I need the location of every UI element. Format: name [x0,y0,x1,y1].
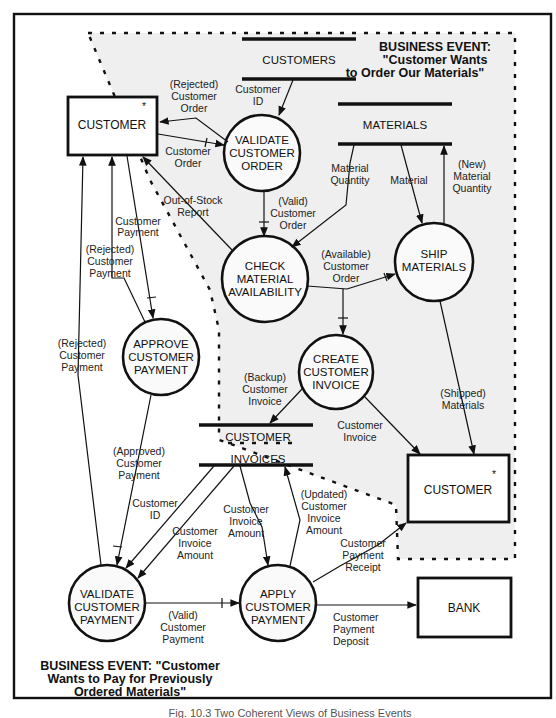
svg-text:CUSTOMER: CUSTOMER [225,431,291,443]
external-entity-customer-top[interactable]: CUSTOMER * [68,97,157,155]
svg-text:CUSTOMER: CUSTOMER [128,351,194,363]
svg-text:*: * [142,100,146,112]
process-check-material-availability[interactable]: CHECK MATERIAL AVAILABILITY [222,236,308,322]
svg-text:Customer: Customer [242,383,288,395]
svg-text:(Approved): (Approved) [113,445,165,457]
svg-text:(Valid): (Valid) [168,609,198,621]
svg-text:ID: ID [253,95,264,107]
svg-text:Customer: Customer [223,503,269,515]
svg-text:Payment: Payment [162,633,204,645]
flow-label-material: Material [390,174,427,186]
svg-text:(Shipped): (Shipped) [440,387,486,399]
svg-text:Payment: Payment [333,623,375,635]
svg-text:Wants to Pay for Previously: Wants to Pay for Previously [48,672,213,686]
svg-text:(Available): (Available) [321,248,370,260]
svg-text:Amount: Amount [228,527,264,539]
svg-text:(Backup): (Backup) [244,371,286,383]
svg-text:Customer: Customer [172,525,218,537]
svg-text:BUSINESS EVENT:: BUSINESS EVENT: [379,40,491,54]
svg-text:CUSTOMER: CUSTOMER [74,601,140,613]
svg-text:MATERIAL: MATERIAL [237,273,294,285]
svg-text:CHECK: CHECK [245,260,286,272]
svg-text:INVOICE: INVOICE [312,379,360,391]
process-apply-customer-payment[interactable]: APPLY CUSTOMER PAYMENT [240,565,316,641]
svg-text:AVAILABILITY: AVAILABILITY [228,286,302,298]
svg-text:Material: Material [453,170,490,182]
svg-text:CUSTOMER: CUSTOMER [245,601,311,613]
svg-text:Ordered Materials": Ordered Materials" [74,685,186,699]
process-validate-customer-order[interactable]: VALIDATE CUSTOMER ORDER [224,115,300,191]
svg-text:Customer: Customer [132,497,178,509]
svg-text:PAYMENT: PAYMENT [80,614,134,626]
process-validate-customer-payment[interactable]: VALIDATE CUSTOMER PAYMENT [69,565,145,641]
svg-text:PAYMENT: PAYMENT [134,364,188,376]
svg-text:Out-of-Stock: Out-of-Stock [164,194,224,206]
svg-text:*: * [492,468,496,480]
svg-text:(Updated): (Updated) [301,488,348,500]
svg-text:Quantity: Quantity [452,182,492,194]
svg-text:Invoice: Invoice [307,512,340,524]
svg-text:CUSTOMER: CUSTOMER [78,118,147,132]
svg-text:Payment: Payment [61,361,103,373]
svg-text:(Rejected): (Rejected) [170,78,218,90]
svg-text:CUSTOMER: CUSTOMER [229,147,295,159]
flow-label-shipped-materials: (Shipped) Materials [440,387,486,411]
svg-text:Customer: Customer [165,145,211,157]
svg-text:Quantity: Quantity [330,174,370,186]
data-flow-diagram: BUSINESS EVENT: "Customer Wants to Order… [0,0,556,718]
svg-text:INVOICES: INVOICES [231,453,286,465]
svg-text:Customer: Customer [323,260,369,272]
svg-text:VALIDATE: VALIDATE [235,134,289,146]
svg-text:Payment: Payment [118,469,160,481]
flow-label-material-quantity: Material Quantity [330,162,370,186]
svg-text:to Order Our Materials": to Order Our Materials" [346,66,485,80]
process-ship-materials[interactable]: SHIP MATERIALS [395,223,473,301]
svg-text:Invoice: Invoice [343,431,376,443]
svg-text:(Rejected): (Rejected) [58,337,106,349]
svg-text:Report: Report [177,206,209,218]
svg-text:(Valid): (Valid) [278,195,308,207]
svg-text:ORDER: ORDER [241,160,283,172]
svg-text:Amount: Amount [306,524,342,536]
svg-text:Order: Order [181,102,208,114]
svg-text:Material: Material [331,162,368,174]
svg-text:Invoice: Invoice [248,395,281,407]
svg-text:Payment: Payment [89,267,131,279]
flow-label-customer-payment-receipt: Customer Payment Receipt [340,537,386,573]
svg-text:CUSTOMER: CUSTOMER [424,483,493,497]
svg-text:Customer: Customer [333,611,379,623]
svg-text:"Customer Wants: "Customer Wants [383,53,488,67]
process-create-customer-invoice[interactable]: CREATE CUSTOMER INVOICE [299,335,373,409]
svg-text:Payment: Payment [117,226,159,238]
svg-text:(New): (New) [458,158,486,170]
svg-text:Order: Order [280,219,307,231]
flow-label-rejected-customer-payment-2: (Rejected) Customer Payment [58,337,106,373]
svg-text:Amount: Amount [177,549,213,561]
svg-text:BUSINESS EVENT: "Customer: BUSINESS EVENT: "Customer [40,659,220,673]
svg-text:APPLY: APPLY [260,588,297,600]
flow-label-rejected-customer-payment-1: (Rejected) Customer Payment [86,243,134,279]
flow-label-customer-invoice-amount-2: Customer Invoice Amount [223,503,269,539]
svg-text:MATERIALS: MATERIALS [363,119,428,131]
external-entity-bank[interactable]: BANK [418,578,511,637]
svg-text:Customer: Customer [270,207,316,219]
svg-text:Customer: Customer [340,537,386,549]
svg-text:Customer: Customer [87,255,133,267]
svg-text:Customer: Customer [235,83,281,95]
external-entity-customer-right[interactable]: CUSTOMER * [408,455,509,522]
svg-text:Invoice: Invoice [178,537,211,549]
flow-label-backup-customer-invoice: (Backup) Customer Invoice [242,371,288,407]
svg-text:Receipt: Receipt [345,561,381,573]
svg-text:CUSTOMERS: CUSTOMERS [262,54,336,66]
svg-text:(Rejected): (Rejected) [86,243,134,255]
flow-label-approved-customer-payment: (Approved) Customer Payment [113,445,165,481]
svg-text:Materials: Materials [442,399,485,411]
svg-text:BANK: BANK [448,601,481,615]
svg-text:VALIDATE: VALIDATE [80,588,134,600]
flow-label-updated-customer-invoice-amount: (Updated) Customer Invoice Amount [301,488,348,536]
process-approve-customer-payment[interactable]: APPROVE CUSTOMER PAYMENT [123,319,199,395]
svg-text:MATERIALS: MATERIALS [402,261,467,273]
svg-text:Customer: Customer [59,349,105,361]
svg-text:APPROVE: APPROVE [133,338,189,350]
svg-text:Order: Order [175,157,202,169]
